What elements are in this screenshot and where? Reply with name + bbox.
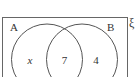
- region-b-only-value: 4: [93, 54, 99, 66]
- region-a-only-value: x: [27, 54, 33, 66]
- region-intersection-value: 7: [62, 54, 68, 66]
- set-a-label: A: [10, 21, 18, 33]
- set-b-label: B: [107, 21, 114, 33]
- venn-diagram: A B ξ x 7 4: [0, 0, 137, 77]
- set-a-circle: [12, 24, 83, 77]
- universal-set-symbol: ξ: [129, 16, 135, 30]
